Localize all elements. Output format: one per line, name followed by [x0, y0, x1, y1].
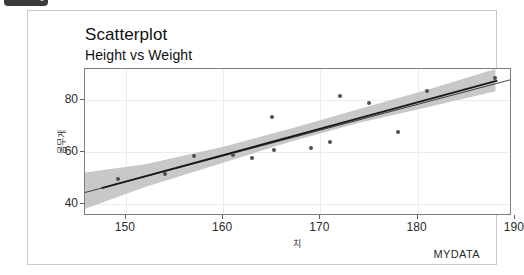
data-point: [192, 154, 196, 158]
y-axis-tick: [80, 151, 84, 152]
window-chrome-bar[interactable]: [4, 0, 48, 6]
x-axis-tick: [514, 215, 515, 219]
chrome-indicator-icon: [40, 0, 44, 1]
x-axis-title: 치: [293, 237, 301, 250]
data-point: [338, 94, 342, 98]
x-axis-tick-label: 170: [309, 220, 329, 234]
x-axis-tick: [319, 215, 320, 219]
plot-card: Scatterplot Height vs Weight 15016017018…: [27, 10, 497, 265]
plot-panel: [84, 68, 511, 215]
plot-caption: MYDATA: [433, 248, 480, 260]
data-point: [396, 130, 400, 134]
page-title: Scatterplot: [85, 25, 167, 45]
data-point: [116, 177, 120, 181]
x-axis-tick-label: 150: [115, 220, 135, 234]
y-axis-tick: [80, 99, 84, 100]
x-axis-tick: [125, 215, 126, 219]
plot-subtitle: Height vs Weight: [85, 47, 192, 63]
y-axis-tick-label: 80: [65, 92, 78, 106]
data-point: [272, 148, 276, 152]
y-axis-tick-label: 40: [65, 196, 78, 210]
data-point: [309, 146, 313, 150]
regression-line: [85, 69, 510, 214]
y-axis-tick: [80, 203, 84, 204]
x-axis-tick: [222, 215, 223, 219]
x-axis-tick: [417, 215, 418, 219]
x-axis-tick-label: 180: [407, 220, 427, 234]
plot-canvas: [85, 69, 510, 214]
x-axis-tick-label: 160: [212, 220, 232, 234]
y-axis-title: 몸무게: [55, 130, 68, 154]
x-axis-tick-label: 190: [504, 220, 524, 234]
data-point: [270, 115, 274, 119]
